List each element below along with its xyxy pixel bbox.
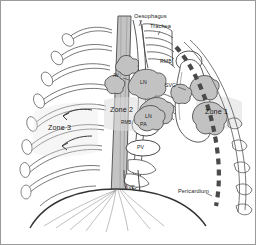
label-trachea: Trachea	[150, 24, 171, 30]
label-rmb-lower: RMB	[121, 121, 132, 126]
label-zone-1: Zone 1	[205, 108, 228, 115]
anatomical-diagram-figure: Oesophagus Trachea RMB LN SVC AV Zone 1 …	[0, 0, 256, 245]
label-rmb-upper: RMB	[160, 59, 172, 64]
label-av: AV	[113, 74, 119, 79]
label-ln-lower: LN	[145, 114, 152, 119]
label-zone-2: Zone 2	[110, 106, 133, 113]
label-oesophagus: Oesophagus	[134, 14, 167, 20]
label-pa: PA	[140, 122, 147, 127]
label-pv: PV	[137, 145, 144, 150]
label-svc: SVC	[165, 83, 176, 88]
label-zone-3: Zone 3	[48, 124, 71, 131]
label-ln-upper: LN	[140, 80, 147, 85]
label-ivc: IVC	[127, 186, 135, 191]
label-pericardium: Pericardium	[178, 189, 209, 195]
